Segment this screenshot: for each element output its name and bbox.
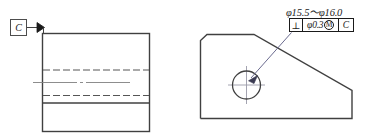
fcf-leader-arrow-icon <box>249 76 258 84</box>
feature-control-frame: ⊥ φ0.3M C <box>289 18 354 32</box>
left-view-group <box>27 23 159 132</box>
datum-reference-cell: C <box>339 19 353 31</box>
datum-feature-symbol-c: C <box>10 19 27 36</box>
engineering-drawing-canvas: C φ15.5～φ16.0 ⊥ φ0.3M C <box>0 0 372 140</box>
mmc-modifier-icon: M <box>324 20 334 30</box>
right-view-group <box>201 33 353 119</box>
fcf-leader-line <box>251 33 292 79</box>
side-view-outline <box>201 35 353 119</box>
perpendicularity-symbol-icon: ⊥ <box>290 19 303 31</box>
hole-diameter-dimension-text: φ15.5～φ16.0 <box>286 4 342 19</box>
tolerance-value-text: φ0.3 <box>307 20 323 30</box>
tolerance-value-cell: φ0.3M <box>303 19 339 31</box>
